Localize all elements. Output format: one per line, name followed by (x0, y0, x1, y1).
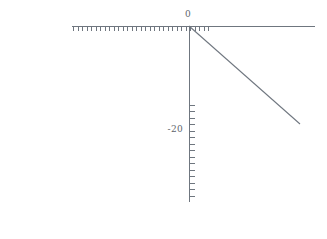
x-axis-tick-label-zero: 0 (185, 9, 191, 19)
plot-background (0, 0, 327, 239)
plot-canvas: 0 -20 (0, 0, 327, 239)
y-axis-tick-label-minus20: -20 (168, 124, 183, 134)
plot-svg: 0 -20 (0, 0, 327, 239)
